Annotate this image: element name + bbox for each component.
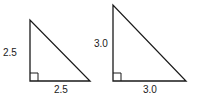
small-vertical-label: 2.5 [3, 47, 17, 58]
triangle-small: 2.5 2.5 [3, 20, 90, 95]
triangle-large-shape [113, 5, 186, 81]
triangles-diagram: 2.5 2.5 3.0 3.0 [0, 0, 197, 98]
small-horizontal-label: 2.5 [54, 84, 68, 95]
triangle-large: 3.0 3.0 [94, 5, 186, 95]
right-angle-marker-small [30, 73, 38, 81]
large-horizontal-label: 3.0 [143, 84, 157, 95]
large-vertical-label: 3.0 [94, 38, 108, 49]
right-angle-marker-large [113, 73, 121, 81]
triangle-small-shape [30, 20, 90, 81]
